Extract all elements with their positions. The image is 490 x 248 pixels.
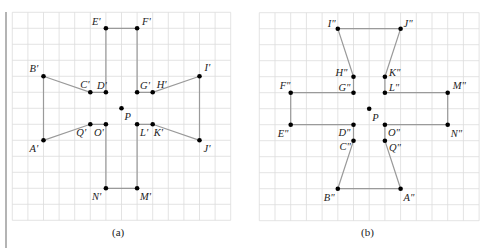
vertex-label: L' (139, 127, 149, 138)
grid-b (259, 13, 479, 221)
vertex-label: A" (403, 192, 415, 203)
vertex-label: G" (339, 82, 352, 93)
vertex-dot (445, 90, 450, 95)
vertex-label: I" (327, 18, 336, 29)
vertex-dot (135, 122, 140, 127)
vertex-label: I' (204, 62, 211, 73)
vertex-label: K" (388, 67, 401, 78)
vertex-label: H" (335, 67, 349, 78)
vertex-label: J' (204, 143, 212, 154)
vertex-label: N" (450, 128, 463, 139)
grid-a (12, 12, 230, 220)
vertex-dot (351, 90, 356, 95)
vertex-label: Q" (389, 142, 402, 153)
panel-b: A"B"C"D"E"F"G"H"I"J"K"L"M"N"O"Q"P (b) (259, 13, 479, 239)
vertex-label: M' (139, 191, 152, 202)
vertex-dot (104, 26, 109, 31)
vertex-label: E' (91, 16, 101, 27)
vertex-dot (104, 186, 109, 191)
vertex-label: H' (156, 79, 168, 90)
vertex-dot (383, 122, 388, 127)
vertex-label: L" (388, 82, 400, 93)
points-b: A"B"C"D"E"F"G"H"I"J"K"L"M"N"O"Q"P (277, 18, 467, 203)
vertex-label: C' (80, 79, 90, 90)
vertex-dot (398, 26, 403, 31)
vertex-label: N' (91, 191, 102, 202)
vertex-dot (351, 74, 356, 79)
vertex-label: P (124, 111, 132, 122)
vertex-label: C" (340, 141, 352, 152)
vertex-dot (150, 90, 155, 95)
vertex-dot (445, 122, 450, 127)
vertex-dot (383, 138, 388, 143)
vertex-label: B' (30, 63, 39, 74)
vertex-dot (197, 138, 202, 143)
vertex-dot (383, 74, 388, 79)
vertex-dot (104, 122, 109, 127)
vertex-dot (351, 138, 356, 143)
vertex-dot (135, 26, 140, 31)
panel-a: A'B'C'D'E'F'G'H'I'J'K'L'M'N'O'Q'P (a) (12, 12, 230, 239)
vertex-dot (150, 122, 155, 127)
vertex-dot (119, 106, 124, 111)
vertex-dot (135, 186, 140, 191)
vertex-dot (88, 90, 93, 95)
vertex-label: E" (277, 128, 289, 139)
vertex-dot (197, 74, 202, 79)
vertex-label: F" (279, 80, 291, 91)
vertex-label: M" (452, 80, 467, 91)
vertex-dot (367, 106, 372, 111)
vertex-dot (398, 186, 403, 191)
vertex-dot (41, 74, 46, 79)
caption-b: (b) (361, 226, 374, 239)
vertex-dot (336, 26, 341, 31)
vertex-dot (288, 90, 293, 95)
vertex-dot (88, 122, 93, 127)
vertex-label: F' (141, 16, 151, 27)
vertex-label: Q' (76, 127, 87, 138)
vertex-dot (383, 90, 388, 95)
vertex-label: D" (338, 127, 352, 138)
vertex-label: D' (96, 80, 108, 91)
vertex-label: J" (404, 18, 414, 29)
vertex-label: K' (153, 127, 164, 138)
vertex-dot (336, 186, 341, 191)
vertex-label: G' (140, 80, 151, 91)
vertex-label: B" (324, 192, 335, 203)
vertex-dot (41, 138, 46, 143)
vertex-label: O' (94, 127, 105, 138)
vertex-label: P (371, 112, 379, 123)
vertex-label: A' (29, 143, 39, 154)
vertex-dot (351, 122, 356, 127)
transformation-figure: A'B'C'D'E'F'G'H'I'J'K'L'M'N'O'Q'P (a) A"… (0, 0, 490, 248)
vertex-dot (135, 90, 140, 95)
vertex-dot (288, 122, 293, 127)
vertex-label: O" (388, 127, 401, 138)
caption-a: (a) (112, 226, 125, 239)
